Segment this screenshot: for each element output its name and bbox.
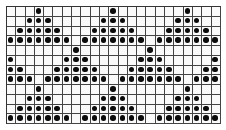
grid-cell [72, 75, 81, 85]
dot-icon [27, 96, 33, 102]
dot-icon [185, 18, 191, 24]
grid-cell [109, 56, 118, 66]
grid-cell [174, 114, 183, 124]
dot-icon [101, 106, 107, 112]
grid-cell [81, 75, 90, 85]
grid-cell [16, 7, 25, 17]
grid-cell [91, 66, 100, 76]
grid-cell [193, 105, 202, 115]
grid-cell [184, 95, 193, 105]
grid-cell [165, 66, 174, 76]
dot-icon [92, 37, 98, 43]
dot-icon [185, 106, 191, 112]
grid-cell [53, 95, 62, 105]
grid-cell [146, 105, 155, 115]
grid-cell [44, 56, 53, 66]
grid-cell [44, 95, 53, 105]
dot-icon [166, 106, 172, 112]
dot-icon [175, 96, 181, 102]
grid-cell [184, 105, 193, 115]
grid-cell [26, 95, 35, 105]
grid-cell [212, 105, 221, 115]
grid-cell [184, 46, 193, 56]
dot-icon [203, 115, 209, 121]
grid-cell [165, 56, 174, 66]
grid-cell [193, 114, 202, 124]
dot-icon [110, 115, 116, 121]
dot-icon [175, 18, 181, 24]
grid-cell [146, 46, 155, 56]
dot-icon [101, 115, 107, 121]
grid-cell [137, 75, 146, 85]
grid-cell [174, 46, 183, 56]
dot-icon [36, 96, 42, 102]
grid-cell [81, 17, 90, 27]
grid-cell [193, 17, 202, 27]
grid-cell [81, 56, 90, 66]
grid-cell [119, 105, 128, 115]
grid-cell [7, 17, 16, 27]
grid-cell [53, 36, 62, 46]
grid-cell [44, 7, 53, 17]
grid-cell [91, 105, 100, 115]
grid-cell [109, 75, 118, 85]
grid-cell [109, 27, 118, 37]
grid-cell [100, 114, 109, 124]
grid-cell [91, 75, 100, 85]
dot-icon [92, 106, 98, 112]
grid-cell [91, 46, 100, 56]
grid-cell [63, 95, 72, 105]
grid-cell [156, 114, 165, 124]
grid-cell [16, 46, 25, 56]
dot-icon [54, 67, 60, 73]
dot-icon [27, 18, 33, 24]
grid-cell [100, 7, 109, 17]
dot-icon [166, 37, 172, 43]
dot-icon [45, 115, 51, 121]
grid-cell [202, 46, 211, 56]
grid-cell [16, 114, 25, 124]
dot-icon [212, 57, 218, 63]
dot-icon [101, 18, 107, 24]
grid-cell [146, 85, 155, 95]
dot-icon [157, 37, 163, 43]
grid-cell [137, 114, 146, 124]
grid-cell [212, 85, 221, 95]
grid-cell [63, 7, 72, 17]
grid-cell [100, 105, 109, 115]
grid-cell [63, 36, 72, 46]
grid-cell [137, 27, 146, 37]
dot-icon [45, 18, 51, 24]
dot-icon [129, 76, 135, 82]
grid-cell [91, 114, 100, 124]
grid-cell [156, 85, 165, 95]
grid-cell [184, 85, 193, 95]
grid-cell [212, 27, 221, 37]
dot-icon [120, 96, 126, 102]
grid-cell [165, 95, 174, 105]
grid-cell [44, 114, 53, 124]
grid-cell [193, 85, 202, 95]
dot-icon [54, 28, 60, 34]
grid-cell [109, 46, 118, 56]
grid-cell [7, 95, 16, 105]
dot-icon [54, 115, 60, 121]
grid-cell [156, 75, 165, 85]
dot-icon [212, 67, 218, 73]
dot-icon [92, 28, 98, 34]
grid-cell [26, 7, 35, 17]
dot-icon [129, 106, 135, 112]
dot-icon [17, 67, 23, 73]
dot-icon [27, 28, 33, 34]
grid-cell [174, 56, 183, 66]
grid-cell [26, 27, 35, 37]
grid-cell [26, 114, 35, 124]
grid-cell [137, 105, 146, 115]
dot-icon [73, 67, 79, 73]
grid-cell [53, 7, 62, 17]
grid-cell [7, 56, 16, 66]
grid-cell [35, 95, 44, 105]
grid-cell [165, 7, 174, 17]
grid-cell [184, 56, 193, 66]
dot-icon [138, 115, 144, 121]
